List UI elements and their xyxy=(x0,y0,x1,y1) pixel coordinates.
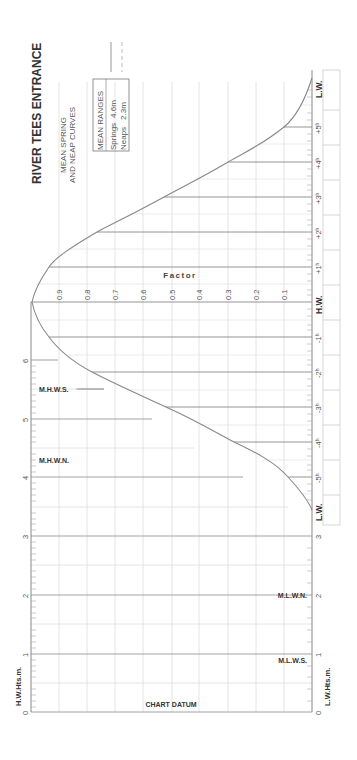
right-strip xyxy=(323,70,340,525)
svg-text:-1ʰ: -1ʰ xyxy=(314,333,323,343)
factor-axis-label: Factor xyxy=(163,271,196,280)
legend-springs: Springs4.6m xyxy=(109,100,118,150)
hw-height-labels: 6 5 4 3 2 1 0 xyxy=(21,359,30,715)
hw-heights-axis-label: H.W.Hts.m. xyxy=(14,667,23,706)
chart-title: RIVER TEES ENTRANCE xyxy=(30,43,44,184)
svg-text:1: 1 xyxy=(21,653,30,657)
mhwn-label: M.H.W.N. xyxy=(39,457,69,464)
svg-text:4: 4 xyxy=(21,476,30,480)
metre-lines xyxy=(31,360,312,712)
svg-text:+1ʰ: +1ʰ xyxy=(314,262,323,274)
svg-text:2: 2 xyxy=(314,594,323,598)
svg-text:0.8: 0.8 xyxy=(83,290,92,300)
svg-text:L.W.: L.W. xyxy=(314,504,324,521)
svg-text:+3ʰ: +3ʰ xyxy=(314,192,323,204)
svg-text:3: 3 xyxy=(21,535,30,539)
svg-text:5: 5 xyxy=(21,418,30,422)
svg-text:-5ʰ: -5ʰ xyxy=(314,473,323,483)
svg-text:-2ʰ: -2ʰ xyxy=(314,368,323,378)
svg-text:+2ʰ: +2ʰ xyxy=(314,227,323,239)
right-axis-ticks xyxy=(307,90,312,701)
svg-text:+4ʰ: +4ʰ xyxy=(314,157,323,169)
svg-text:-3ʰ: -3ʰ xyxy=(314,403,323,413)
svg-text:3: 3 xyxy=(314,535,323,539)
legend-neaps: Neaps2.3m xyxy=(119,102,128,150)
subtitle-line2: AND NEAP CURVES xyxy=(68,107,77,183)
mlwn-label: M.L.W.N. xyxy=(278,592,307,599)
svg-text:-4ʰ: -4ʰ xyxy=(314,438,323,448)
mean-ranges-legend: MEAN RANGES Springs4.6m Neaps2.3m xyxy=(93,79,129,151)
svg-text:0.2: 0.2 xyxy=(252,290,261,300)
svg-text:0.7: 0.7 xyxy=(111,290,120,300)
svg-text:+5ʰ: +5ʰ xyxy=(314,122,323,134)
svg-text:0.1: 0.1 xyxy=(280,290,289,300)
factor-gridlines xyxy=(59,82,284,712)
tidal-curve-diagram: MEAN RANGES Springs4.6m Neaps2.3m RIVER … xyxy=(0,0,357,760)
svg-text:0.9: 0.9 xyxy=(55,290,64,300)
time-labels: L.W. +5ʰ +4ʰ +3ʰ +2ʰ +1ʰ H.W. -1ʰ -2ʰ -3… xyxy=(314,81,324,521)
legend-header: MEAN RANGES xyxy=(96,91,105,150)
left-axis-ticks xyxy=(31,366,36,707)
lw-height-labels: 3 2 1 0 xyxy=(314,535,323,715)
lw-heights-axis-label: L.W.Hts.m. xyxy=(323,668,332,706)
svg-text:2: 2 xyxy=(21,594,30,598)
factor-tick-labels: 0.9 0.8 0.7 0.6 0.5 0.4 0.3 0.2 0.1 xyxy=(55,290,289,300)
mlws-label: M.L.W.S. xyxy=(278,657,307,664)
svg-text:L.W.: L.W. xyxy=(314,81,324,98)
mhws-label: M.H.W.S. xyxy=(39,386,69,393)
svg-text:0.4: 0.4 xyxy=(195,290,204,300)
svg-text:H.W.: H.W. xyxy=(314,296,324,314)
svg-text:0: 0 xyxy=(21,711,30,715)
legend-lines xyxy=(111,42,122,72)
subtitle-line1: MEAN SPRING xyxy=(59,117,68,173)
svg-text:0.5: 0.5 xyxy=(168,290,177,300)
chart-datum-label: CHART DATUM xyxy=(145,701,196,708)
svg-text:0.6: 0.6 xyxy=(139,290,148,300)
svg-text:1: 1 xyxy=(314,653,323,657)
svg-text:0: 0 xyxy=(314,711,323,715)
svg-text:0.3: 0.3 xyxy=(224,290,233,300)
svg-text:6: 6 xyxy=(21,359,30,363)
